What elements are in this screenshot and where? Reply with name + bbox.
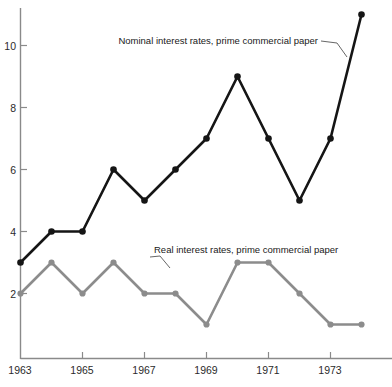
y-tick-label-10: 10 [4, 40, 16, 52]
chart-plot-area: 10 8 6 4 2 1963 1965 1967 1969 1971 1973 [0, 0, 392, 387]
data-point [17, 259, 24, 266]
interest-rates-line-chart: 10 8 6 4 2 1963 1965 1967 1969 1971 1973 [0, 0, 392, 387]
data-point [327, 321, 333, 327]
data-point [203, 135, 210, 142]
data-point [203, 321, 209, 327]
real-series-annotation: Real interest rates, prime commercial pa… [154, 244, 338, 255]
nominal-series-annotation: Nominal interest rates, prime commercial… [118, 35, 318, 46]
nominal-label-leader-line [321, 41, 347, 57]
data-point [110, 166, 117, 173]
x-axis-ticks [83, 352, 331, 359]
data-point [79, 290, 85, 296]
x-axis-tick-labels: 1963 1965 1967 1969 1971 1973 [8, 364, 342, 376]
y-tick-label-4: 4 [10, 226, 16, 238]
data-point [172, 290, 178, 296]
data-point [141, 290, 147, 296]
data-point [79, 228, 86, 235]
data-point [234, 259, 240, 265]
data-point [327, 135, 334, 142]
series-line-nominal [21, 15, 362, 263]
x-tick-label-1965: 1965 [70, 364, 94, 376]
data-point [234, 73, 241, 80]
y-tick-label-8: 8 [10, 102, 16, 114]
y-tick-label-6: 6 [10, 164, 16, 176]
series-nominal-interest-rates [17, 11, 365, 266]
real-label-leader-line [150, 256, 170, 268]
data-point [17, 290, 23, 296]
x-tick-label-1971: 1971 [256, 364, 280, 376]
data-point [110, 259, 116, 265]
x-tick-label-1963: 1963 [8, 364, 32, 376]
x-tick-label-1969: 1969 [194, 364, 218, 376]
data-point [358, 11, 365, 18]
data-point [172, 166, 179, 173]
y-tick-label-2: 2 [10, 288, 16, 300]
data-point [141, 197, 148, 204]
data-point [358, 321, 364, 327]
data-point [48, 259, 54, 265]
x-tick-label-1973: 1973 [318, 364, 342, 376]
x-tick-label-1967: 1967 [132, 364, 156, 376]
data-point [296, 197, 303, 204]
y-axis-tick-labels: 10 8 6 4 2 [4, 40, 16, 300]
data-point [265, 135, 272, 142]
series-real-interest-rates [17, 259, 364, 327]
series-line-real [21, 263, 362, 325]
data-point [296, 290, 302, 296]
data-point [48, 228, 55, 235]
data-point [265, 259, 271, 265]
